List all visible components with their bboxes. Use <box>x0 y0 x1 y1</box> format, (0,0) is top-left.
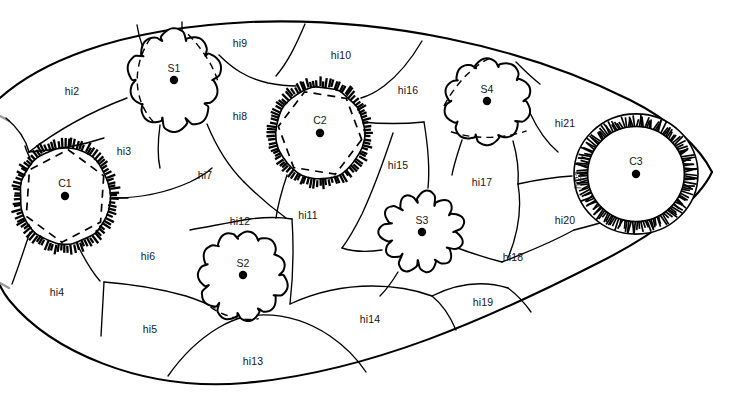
hatch-tick <box>624 220 625 229</box>
hatch-tick <box>74 245 76 254</box>
hatch-tick <box>110 193 120 194</box>
hatch-tick <box>364 126 371 127</box>
hatch-tick <box>313 81 314 88</box>
hatch-tick <box>54 139 56 148</box>
hatch-tick <box>14 205 21 206</box>
hatch-tick <box>106 214 112 217</box>
hatch-tick <box>359 156 367 160</box>
hatch-tick <box>363 118 371 120</box>
hatch-tick <box>325 179 326 185</box>
septum-hi17-hi20 <box>508 184 520 258</box>
hatch-tick <box>682 189 690 190</box>
region-label-hi19: hi19 <box>473 296 493 308</box>
hatch-tick <box>266 136 274 137</box>
hatch-tick <box>577 170 588 171</box>
cell-nucleus-s3 <box>418 228 426 236</box>
septum-s1-bottom-stem <box>158 125 160 168</box>
septum-hi12-right <box>250 218 292 220</box>
hatch-tick <box>44 145 47 151</box>
hatch-tick <box>73 139 75 148</box>
cell-label-s1: S1 <box>167 62 180 74</box>
hatch-tick <box>107 175 115 178</box>
hatch-tick <box>103 169 108 172</box>
hatch-tick <box>316 80 317 87</box>
septum-s4-bottom <box>452 140 462 175</box>
hatch-tick <box>81 145 83 151</box>
hatch-tick <box>684 179 695 180</box>
cell-nucleus-s2 <box>239 271 247 279</box>
diagram-canvas: C1C2C3S1S2S3S4hi2hi3hi4hi5hi6hi7hi8hi9hi… <box>0 0 737 396</box>
hatch-tick <box>77 242 79 250</box>
septum-c1-to-hi4 <box>12 232 30 284</box>
hatch-tick <box>62 138 63 148</box>
hatch-tick <box>12 185 20 187</box>
region-label-hi3: hi3 <box>117 145 131 157</box>
region-label-hi5: hi5 <box>143 323 157 335</box>
hatch-tick <box>17 212 23 214</box>
region-label-hi11: hi11 <box>298 209 318 221</box>
septum-s3-left <box>342 248 382 251</box>
septum-hi8-hi7 <box>207 124 244 182</box>
hatch-tick <box>271 118 278 120</box>
hatch-tick <box>310 179 312 189</box>
hatch-tick <box>11 209 21 212</box>
region-label-hi14: hi14 <box>360 313 380 325</box>
cell-nucleus-c1 <box>61 192 69 200</box>
septum-hi21-hi20 <box>530 113 558 152</box>
region-label-hi7: hi7 <box>198 169 212 181</box>
cell-label-s4: S4 <box>480 83 493 95</box>
region-label-hi9: hi9 <box>233 37 247 49</box>
hatch-tick <box>331 79 333 87</box>
septum-hi4-hi5 <box>101 282 104 336</box>
cell-s3[interactable] <box>378 190 464 272</box>
septum-hi9-hi8 <box>219 55 296 86</box>
septum-hi20-c3 <box>518 176 572 184</box>
septum-hi16-hi15 <box>362 122 424 124</box>
edge-marker-group <box>0 116 9 288</box>
hatch-tick <box>584 154 591 155</box>
septum-hi6-hi5 <box>104 282 215 308</box>
region-label-hi18: hi18 <box>503 251 523 263</box>
hatch-tick <box>51 142 53 150</box>
septum-hi15-s3 <box>424 122 429 188</box>
hatch-tick <box>578 158 590 159</box>
cell-s2[interactable] <box>198 231 288 321</box>
region-label-hi8: hi8 <box>233 110 247 122</box>
tissue-schematic-svg: C1C2C3S1S2S3S4hi2hi3hi4hi5hi6hi7hi8hi9hi… <box>0 0 737 396</box>
cell-c1[interactable] <box>11 138 120 255</box>
septum-hi18-hi19 <box>432 284 508 296</box>
hatch-tick <box>109 202 115 203</box>
hatch-tick <box>268 139 276 140</box>
hatch-tick <box>70 138 71 147</box>
hatch-tick <box>306 78 308 87</box>
septum-hi14-hi19 <box>432 296 456 330</box>
septum-hi5-hi13 <box>168 316 248 376</box>
hatch-tick <box>108 211 116 214</box>
septum-c2-to-hi11 <box>276 175 287 218</box>
cell-c2[interactable] <box>266 76 372 189</box>
septum-s4-bottom-right <box>513 141 518 184</box>
hatch-tick <box>331 177 333 183</box>
hatch-tick <box>362 148 368 150</box>
hatch-tick <box>70 245 71 255</box>
region-label-hi21: hi21 <box>555 117 575 129</box>
hatch-tick <box>363 142 370 143</box>
hatch-tick <box>276 106 282 109</box>
cell-label-s2: S2 <box>236 257 249 269</box>
hatch-tick <box>109 185 116 186</box>
hatch-tick <box>286 168 290 173</box>
hatch-tick <box>13 203 21 204</box>
septum-hi9-hi10 <box>276 24 305 76</box>
hatch-tick <box>107 179 114 181</box>
cell-c3[interactable] <box>574 114 698 234</box>
region-label-hi4: hi4 <box>50 286 64 298</box>
hatch-tick <box>105 171 111 174</box>
hatch-tick <box>313 179 314 189</box>
cell-s4[interactable] <box>444 57 530 145</box>
hatch-tick <box>58 244 59 252</box>
hatch-tick <box>267 129 277 130</box>
cell-label-c1: C1 <box>58 177 72 189</box>
hatch-tick <box>362 122 368 123</box>
hatch-tick <box>576 163 588 164</box>
septum-hi11-hi14 <box>290 286 432 304</box>
